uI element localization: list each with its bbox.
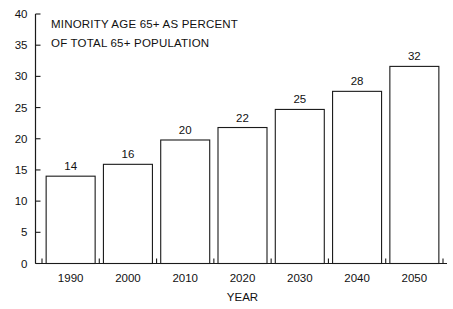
bar-value-label: 32 <box>408 50 421 62</box>
x-axis-category-label: 2050 <box>402 272 428 284</box>
x-axis-category-label: 2040 <box>344 272 370 284</box>
y-axis-tick-label: 0 <box>21 258 27 270</box>
y-axis-tick-label: 10 <box>15 195 28 207</box>
chart-title-line-2: OF TOTAL 65+ POPULATION <box>51 37 209 49</box>
chart-title-line-1: MINORITY AGE 65+ AS PERCENT <box>51 18 238 30</box>
bar-chart-figure: 0510152025303540141990162000202010222020… <box>0 0 453 309</box>
bar-value-label: 14 <box>64 160 77 172</box>
chart-canvas: 0510152025303540141990162000202010222020… <box>0 0 453 309</box>
y-axis-tick-label: 40 <box>15 8 28 20</box>
x-axis-category-label: 1990 <box>58 272 84 284</box>
bar[interactable] <box>333 91 382 263</box>
bar[interactable] <box>103 164 152 263</box>
x-axis-title: YEAR <box>227 291 258 303</box>
x-axis-category-label: 2030 <box>287 272 313 284</box>
x-axis-category-label: 2020 <box>230 272 256 284</box>
bar[interactable] <box>218 128 267 264</box>
x-axis-category-label: 2000 <box>115 272 141 284</box>
bar-value-label: 28 <box>351 75 364 87</box>
bar-value-label: 16 <box>122 148 135 160</box>
y-axis-tick-label: 25 <box>15 102 28 114</box>
bar-value-label: 22 <box>236 112 249 124</box>
y-axis-tick-label: 5 <box>21 226 27 238</box>
y-axis-tick-label: 15 <box>15 164 28 176</box>
bar[interactable] <box>46 176 95 263</box>
bar-value-label: 25 <box>293 93 306 105</box>
y-axis-tick-label: 30 <box>15 70 28 82</box>
y-axis-tick-label: 35 <box>15 39 28 51</box>
x-axis-category-label: 2010 <box>172 272 198 284</box>
bar[interactable] <box>390 66 439 263</box>
bar[interactable] <box>275 109 324 263</box>
bar-value-label: 20 <box>179 124 192 136</box>
bar[interactable] <box>161 140 210 264</box>
y-axis-tick-label: 20 <box>15 133 28 145</box>
